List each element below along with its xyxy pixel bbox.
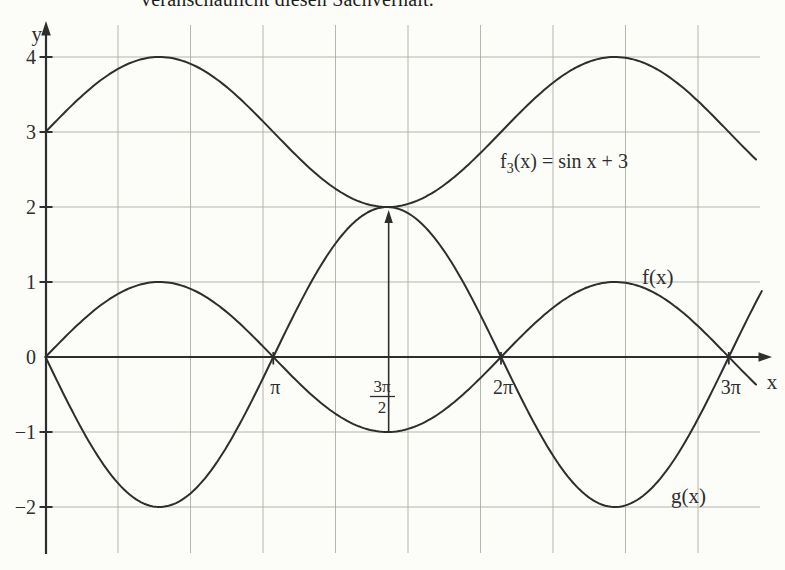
y-axis-label: y	[32, 22, 43, 46]
curve-label-f3: f3(x) = sin x + 3	[500, 150, 628, 176]
x-tick-label: 2π	[493, 376, 513, 398]
y-tick-label: 2	[26, 196, 36, 218]
x-tick-label: π	[270, 376, 280, 398]
shift-arrowhead	[384, 210, 392, 223]
y-tick-label: −2	[15, 496, 36, 518]
x-axis-label: x	[767, 370, 778, 394]
y-tick-label: 4	[26, 46, 36, 68]
fraction-numerator: 3π	[373, 377, 391, 396]
y-tick-label: −1	[15, 421, 36, 443]
x-tick-label: 3π	[721, 376, 741, 398]
curve-label-g: g(x)	[671, 484, 706, 508]
fraction-denominator: 2	[378, 398, 387, 417]
trig-functions-chart: 43210−1−2π2π3π y x f3(x) = sin x + 3 f(x…	[0, 0, 785, 570]
y-tick-label: 1	[26, 271, 36, 293]
x-tick-fraction-3pi-over-2: 3π 2	[370, 377, 395, 417]
grid	[45, 25, 760, 553]
y-tick-label: 0	[26, 346, 36, 368]
curve-label-f: f(x)	[642, 265, 673, 289]
y-tick-label: 3	[26, 121, 36, 143]
y-axis-arrowhead	[41, 21, 51, 36]
x-axis-arrowhead	[759, 352, 773, 362]
